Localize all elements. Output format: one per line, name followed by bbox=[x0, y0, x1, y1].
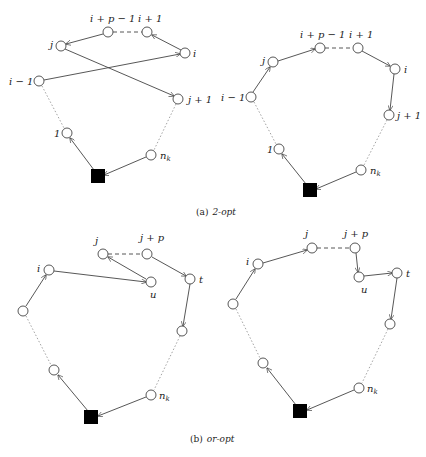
local-search-diagram: i + p − 1 i + 1 j i i − 1 j + 1 1 nk i +… bbox=[0, 0, 426, 457]
node-j-p bbox=[350, 243, 360, 253]
node-u bbox=[354, 272, 364, 282]
edge bbox=[104, 157, 146, 175]
label-i-p-1: i + p − 1 bbox=[90, 13, 135, 24]
label-i-minus-1: i − 1 bbox=[221, 92, 245, 103]
label-u: u bbox=[361, 284, 367, 295]
edge bbox=[356, 253, 358, 272]
edge bbox=[391, 278, 397, 319]
dotted-path bbox=[362, 329, 388, 383]
label-j-plus-1: j + 1 bbox=[186, 94, 212, 105]
edge bbox=[282, 154, 306, 184]
node-nk bbox=[146, 150, 156, 160]
label-j: j bbox=[93, 235, 98, 246]
label-j-p: j + p bbox=[138, 232, 165, 243]
caption-b: (b)or-opt bbox=[190, 434, 235, 444]
edge bbox=[307, 390, 354, 410]
label-i-plus-1: i + 1 bbox=[349, 29, 373, 40]
label-nk: nk bbox=[159, 390, 170, 403]
panel-b-after: j j + p i u t nk bbox=[228, 228, 411, 418]
edge bbox=[152, 35, 181, 50]
node-1 bbox=[274, 144, 284, 154]
node bbox=[18, 306, 28, 316]
label-t: t bbox=[199, 274, 204, 285]
depot bbox=[84, 410, 98, 424]
node-i-plus-1 bbox=[353, 43, 363, 53]
edge bbox=[263, 250, 307, 263]
edge bbox=[66, 34, 103, 44]
label-i-p-1: i + p − 1 bbox=[300, 29, 345, 40]
dotted-path bbox=[254, 102, 276, 144]
edge bbox=[183, 284, 190, 326]
label-t: t bbox=[406, 268, 411, 279]
edge bbox=[44, 54, 180, 80]
edge bbox=[70, 138, 94, 170]
node-i-plus-1 bbox=[142, 27, 152, 37]
edge bbox=[278, 49, 315, 61]
label-j: j bbox=[303, 228, 308, 239]
dotted-path bbox=[42, 86, 64, 128]
edge bbox=[267, 368, 296, 405]
label-1: 1 bbox=[54, 128, 60, 139]
dotted-path bbox=[26, 316, 51, 365]
panel-a-before: i + p − 1 i + 1 j i i − 1 j + 1 1 nk bbox=[9, 13, 212, 183]
label-nk: nk bbox=[370, 165, 381, 178]
depot bbox=[91, 169, 105, 183]
node-nk bbox=[146, 390, 156, 400]
label-j: j bbox=[48, 39, 53, 50]
node-i bbox=[390, 64, 400, 74]
node-j bbox=[98, 249, 108, 259]
node-j bbox=[268, 57, 278, 67]
edge bbox=[58, 375, 88, 411]
node-nk bbox=[356, 165, 366, 175]
dotted-path bbox=[364, 120, 387, 165]
node-1 bbox=[62, 128, 72, 138]
node-j bbox=[307, 243, 317, 253]
label-i: i bbox=[404, 64, 407, 75]
label-j: j bbox=[260, 55, 265, 66]
label-i: i bbox=[37, 263, 40, 274]
node-i bbox=[253, 259, 263, 269]
node-j-p bbox=[142, 249, 152, 259]
edge bbox=[108, 257, 146, 279]
node-u bbox=[146, 277, 156, 287]
node-i-minus-1 bbox=[246, 92, 256, 102]
depot bbox=[303, 183, 317, 197]
label-i: i bbox=[193, 48, 196, 59]
edge bbox=[316, 172, 356, 189]
label-i-minus-1: i − 1 bbox=[9, 76, 33, 87]
label-nk: nk bbox=[160, 150, 171, 163]
edge bbox=[364, 273, 392, 276]
label-j-p: j + p bbox=[342, 228, 369, 239]
panel-b-before: j j + p i u t nk bbox=[18, 232, 204, 424]
label-u: u bbox=[150, 289, 156, 300]
caption-a: (a)2-opt bbox=[196, 207, 236, 217]
node-t bbox=[185, 274, 195, 284]
label-i: i bbox=[246, 256, 249, 267]
node-j bbox=[56, 41, 66, 51]
edge bbox=[54, 271, 146, 282]
edge bbox=[362, 51, 390, 66]
panel-a-after: i + p − 1 i + 1 j i i − 1 j + 1 1 nk bbox=[221, 29, 421, 197]
node-i-p-1 bbox=[315, 43, 325, 53]
label-1: 1 bbox=[267, 144, 273, 155]
edge bbox=[390, 74, 394, 110]
edge bbox=[236, 269, 255, 299]
dotted-path bbox=[236, 309, 260, 358]
label-nk: nk bbox=[367, 383, 378, 396]
node-j-plus-1 bbox=[384, 110, 394, 120]
label-i-plus-1: i + 1 bbox=[138, 13, 162, 24]
node-t bbox=[392, 268, 402, 278]
node-i bbox=[44, 265, 54, 275]
node-i-minus-1 bbox=[34, 76, 44, 86]
edge bbox=[26, 275, 46, 306]
node-i-p-1 bbox=[103, 27, 113, 37]
depot bbox=[293, 404, 307, 418]
edge bbox=[253, 67, 270, 92]
edge bbox=[98, 397, 146, 416]
dotted-path bbox=[154, 104, 176, 150]
node bbox=[385, 319, 395, 329]
node bbox=[49, 365, 59, 375]
label-j-plus-1: j + 1 bbox=[395, 110, 421, 121]
node bbox=[228, 299, 238, 309]
node-j-plus-1 bbox=[173, 94, 183, 104]
